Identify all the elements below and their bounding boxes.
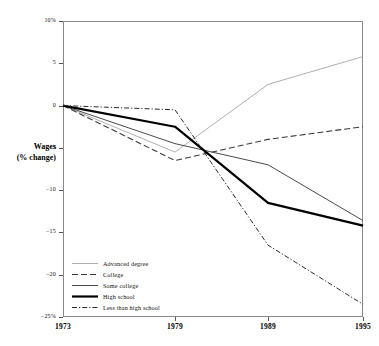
legend-item-some-college[interactable]: Some college [72, 280, 160, 291]
legend-label: Less than high school [103, 304, 160, 311]
legend-label: Some college [103, 282, 138, 289]
series-line-advanced-degree [63, 57, 363, 153]
legend-label: College [103, 271, 123, 278]
chart-container: 10%50−5−10−15−20−25% 1973197919891995 Wa… [0, 0, 379, 346]
legend-item-advanced-degree[interactable]: Advanced degree [72, 258, 160, 269]
series-line-some-college [63, 106, 363, 221]
legend-label: Advanced degree [103, 260, 148, 267]
legend-label: High school [103, 293, 135, 300]
legend-item-less-than-high-school[interactable]: Less than high school [72, 302, 160, 313]
legend-swatch-icon [72, 281, 98, 290]
series-line-high-school [63, 106, 363, 226]
legend-item-high-school[interactable]: High school [72, 291, 160, 302]
chart-legend: Advanced degreeCollegeSome collegeHigh s… [72, 258, 160, 313]
legend-item-college[interactable]: College [72, 269, 160, 280]
legend-swatch-icon [72, 292, 98, 301]
legend-swatch-icon [72, 270, 98, 279]
legend-swatch-icon [72, 303, 98, 312]
legend-swatch-icon [72, 259, 98, 268]
series-lines [0, 0, 379, 346]
